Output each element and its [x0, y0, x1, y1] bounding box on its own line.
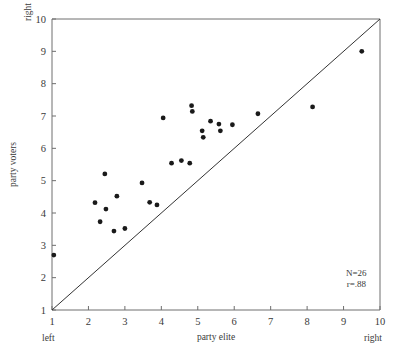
- y-axis-title: party voters: [8, 142, 18, 187]
- x-axis-title: party elite: [197, 332, 235, 342]
- data-point: [102, 171, 107, 176]
- x-tick-label: 1: [49, 316, 54, 327]
- x-tick-label: 2: [86, 316, 91, 327]
- data-point: [51, 253, 56, 258]
- chart-annotations: N=26r=.88: [346, 268, 367, 289]
- diagonal-line: [52, 19, 380, 310]
- x-axis-high-label: right: [364, 333, 382, 343]
- data-point: [155, 203, 160, 208]
- axis-titles: party eliteparty votersleftrightright: [8, 3, 382, 343]
- y-axis-high-label: right: [23, 3, 33, 21]
- data-point: [200, 128, 205, 133]
- x-tick-label: 8: [304, 316, 309, 327]
- x-tick-label: 10: [375, 316, 386, 327]
- data-point: [187, 161, 192, 166]
- data-point: [147, 200, 152, 205]
- scatter-plot-figure: 1234567891012345678910 party eliteparty …: [0, 0, 403, 356]
- data-point: [140, 181, 145, 186]
- data-point: [93, 200, 98, 205]
- data-point: [201, 135, 206, 140]
- data-point: [230, 122, 235, 127]
- data-point: [98, 219, 103, 224]
- plot-canvas: 1234567891012345678910 party eliteparty …: [0, 0, 403, 356]
- y-tick-label: 1: [41, 305, 46, 316]
- y-tick-label: 9: [41, 46, 46, 57]
- chart-annotation: N=26: [346, 268, 367, 278]
- data-point: [112, 229, 117, 234]
- data-point: [114, 194, 119, 199]
- data-points: [51, 49, 364, 258]
- data-point: [104, 207, 109, 212]
- x-tick-label: 6: [232, 316, 237, 327]
- data-point: [217, 122, 222, 127]
- y-tick-label: 8: [41, 78, 46, 89]
- y-tick-label: 4: [41, 208, 47, 219]
- data-point: [122, 226, 127, 231]
- y-tick-label: 3: [41, 240, 46, 251]
- x-tick-label: 3: [122, 316, 127, 327]
- y-tick-label: 7: [41, 111, 46, 122]
- data-point: [256, 111, 261, 116]
- y-tick-label: 5: [41, 175, 46, 186]
- data-point: [359, 49, 364, 54]
- x-tick-label: 7: [268, 316, 273, 327]
- data-point: [189, 103, 194, 108]
- data-point: [169, 161, 174, 166]
- data-point: [218, 128, 223, 133]
- x-axis-low-label: left: [42, 333, 55, 343]
- diagonal-reference-line: [52, 19, 380, 310]
- x-tick-label: 9: [341, 316, 346, 327]
- y-tick-label: 2: [41, 272, 46, 283]
- data-point: [310, 105, 315, 110]
- data-point: [179, 158, 184, 163]
- x-tick-label: 4: [159, 316, 165, 327]
- y-tick-label: 6: [41, 143, 46, 154]
- data-point: [208, 119, 213, 124]
- data-point: [190, 109, 195, 114]
- y-tick-label: 10: [36, 14, 47, 25]
- data-point: [161, 116, 166, 121]
- chart-annotation: r=.88: [347, 279, 367, 289]
- x-tick-label: 5: [195, 316, 200, 327]
